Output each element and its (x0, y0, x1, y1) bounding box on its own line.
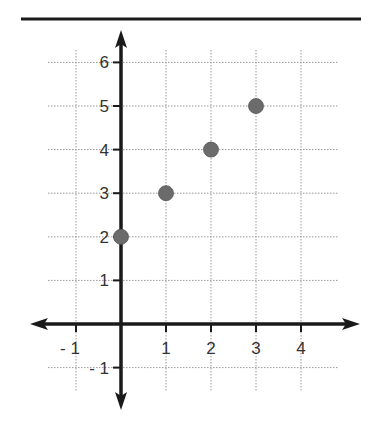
data-point (249, 99, 264, 114)
data-point (159, 186, 174, 201)
y-tick-label: - 1 (89, 359, 109, 378)
grid (48, 50, 338, 392)
y-tick-label: 1 (100, 271, 109, 290)
y-tick-label: 4 (100, 141, 109, 160)
y-tick-label: 6 (100, 53, 109, 72)
data-point (204, 142, 219, 157)
x-tick-label: 4 (296, 339, 305, 358)
data-points (114, 99, 264, 245)
x-tick-label: 2 (206, 339, 215, 358)
x-tick-label: 3 (251, 339, 260, 358)
y-tick-label: 3 (100, 184, 109, 203)
coordinate-plane: - 11234654321- 1 (0, 0, 369, 424)
tick-labels: - 11234654321- 1 (60, 53, 306, 377)
data-point (114, 229, 129, 244)
y-tick-label: 2 (100, 228, 109, 247)
x-tick-label: - 1 (60, 339, 80, 358)
y-tick-label: 5 (100, 97, 109, 116)
x-tick-label: 1 (161, 339, 170, 358)
